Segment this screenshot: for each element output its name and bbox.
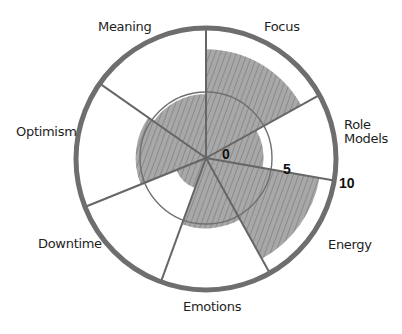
tick-0: 0 [222, 146, 230, 162]
tick-5: 5 [283, 161, 291, 177]
tick-10: 10 [339, 175, 355, 191]
label-optimism: Optimism [16, 125, 77, 139]
label-downtime: Downtime [38, 237, 102, 251]
label-meaning: Meaning [98, 20, 151, 34]
wheel-chart: Meaning Focus Role Models Optimism Energ… [0, 0, 402, 334]
label-focus: Focus [264, 20, 300, 34]
label-role-models: Role Models [344, 118, 388, 146]
wheel-svg [0, 0, 402, 334]
label-energy: Energy [328, 238, 372, 252]
label-emotions: Emotions [183, 300, 241, 314]
